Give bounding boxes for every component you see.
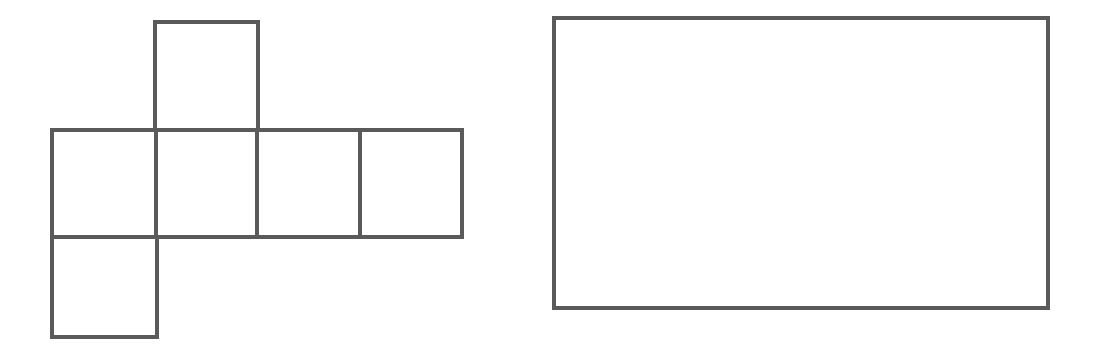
rectangle-outline xyxy=(554,18,1048,308)
figures-svg xyxy=(0,0,1100,353)
figure-canvas xyxy=(0,0,1100,353)
rectangle-figure xyxy=(554,18,1048,308)
cube-net-figure xyxy=(52,22,462,337)
